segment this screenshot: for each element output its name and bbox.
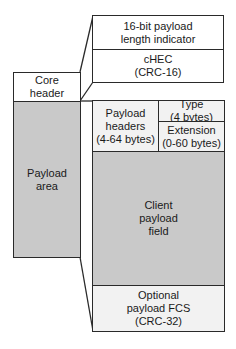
chec-cell: cHEC (CRC-16)	[93, 50, 223, 82]
extension-cell: Extension (0-60 bytes)	[159, 122, 224, 151]
payload-area-cell: Payload area	[14, 102, 80, 257]
client-payload-cell: Client payload field	[93, 152, 224, 285]
core-header-cell: Core header	[14, 73, 80, 101]
chec-label: cHEC (CRC-16)	[134, 53, 181, 79]
payload-headers-label: Payload headers (4-64 bytes)	[96, 107, 155, 146]
payload-headers-cell: Payload headers (4-64 bytes)	[93, 101, 158, 151]
extension-label: Extension (0-60 bytes)	[162, 124, 221, 150]
payload-area-label: Payload area	[27, 167, 67, 193]
length-indicator-label: 16-bit payload length indicator	[121, 20, 196, 46]
type-cell: Type (4 bytes)	[159, 101, 224, 121]
length-indicator-cell: 16-bit payload length indicator	[93, 16, 223, 49]
fcs-label: Optional payload FCS (CRC-32)	[127, 289, 191, 328]
fcs-cell: Optional payload FCS (CRC-32)	[93, 286, 224, 331]
core-header-label: Core header	[30, 74, 64, 100]
client-payload-label: Client payload field	[139, 199, 178, 238]
